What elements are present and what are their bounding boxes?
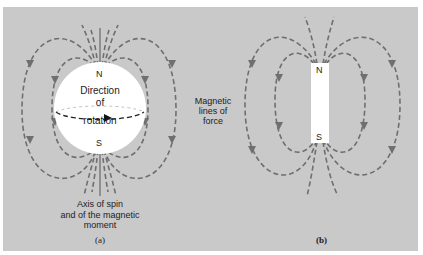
- rotation-label-line1: Direction: [62, 85, 138, 97]
- rotation-label-line3: rotation: [62, 115, 138, 127]
- axis-label-line3: moment: [50, 220, 150, 231]
- caption-b: (b): [316, 235, 327, 245]
- magnetic-lines-label-line2: lines of: [188, 106, 238, 116]
- axis-label: Axis of spin and of the magnetic moment: [50, 199, 150, 231]
- axis-label-line2: and of the magnetic: [50, 210, 150, 221]
- caption-a: (a): [95, 235, 105, 245]
- magnet-south-label: S: [316, 132, 322, 142]
- magnetic-lines-label-line1: Magnetic: [188, 96, 238, 106]
- magnet-north-label: N: [316, 65, 323, 75]
- bar-magnet: [311, 63, 329, 143]
- rotation-label: Direction of rotation: [62, 85, 138, 127]
- magnetic-lines-label-line3: force: [188, 116, 238, 126]
- sphere-south-label: S: [96, 138, 102, 148]
- rotation-label-line2: of: [62, 97, 138, 109]
- axis-label-line1: Axis of spin: [50, 199, 150, 210]
- sphere-north-label: N: [96, 69, 103, 79]
- magnetic-lines-label: Magnetic lines of force: [188, 96, 238, 126]
